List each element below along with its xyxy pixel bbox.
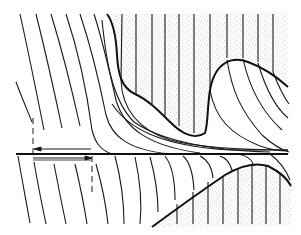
- arrow-left-head: [34, 147, 41, 151]
- flow-diagram: [0, 0, 301, 235]
- arrow-right-head: [85, 156, 92, 160]
